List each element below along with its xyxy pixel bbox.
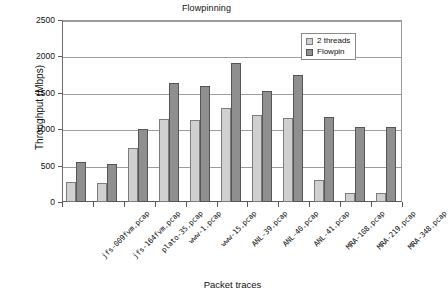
bar-www-15.pcap-Flowpin: [200, 86, 210, 202]
x-tick-mark: [93, 202, 94, 207]
bar-MRA-348.pcap-2-threads: [376, 193, 386, 202]
x-tick-mark: [402, 202, 403, 207]
bar-MRA-108.pcap-2-threads: [314, 180, 324, 202]
x-tick-mark: [340, 202, 341, 207]
x-tick-mark: [124, 202, 125, 207]
bar-MRA-219.pcap-Flowpin: [355, 127, 365, 202]
bar-MRA-219.pcap-2-threads: [345, 193, 355, 202]
bar-MRA-108.pcap-Flowpin: [324, 117, 334, 202]
y-tick-label: 2500: [15, 15, 55, 25]
bar-ANL-40.pcap-2-threads: [252, 115, 262, 202]
y-tick-mark: [58, 93, 62, 94]
bar-jfs-164fvm.pcap-2-threads: [97, 183, 107, 202]
bar-jfs-009fvm.pcap-Flowpin: [76, 162, 86, 202]
legend-item-Flowpin: Flowpin: [306, 48, 350, 56]
y-tick-label: 1500: [15, 88, 55, 98]
y-gridline: [63, 21, 401, 22]
bar-ANL-41.pcap-2-threads: [283, 118, 293, 202]
bar-jfs-164fvm.pcap-Flowpin: [107, 164, 117, 202]
chart-title: Flowpinning: [0, 3, 413, 13]
bar-www-15.pcap-2-threads: [190, 120, 200, 202]
legend-swatch-icon: [306, 38, 313, 45]
bar-plato-35.pcap-2-threads: [128, 148, 138, 202]
bar-ANL-41.pcap-Flowpin: [293, 75, 303, 202]
y-tick-label: 500: [15, 161, 55, 171]
x-tick-mark: [217, 202, 218, 207]
legend-label: Flowpin: [317, 48, 345, 56]
y-tick-label: 1000: [15, 124, 55, 134]
x-tick-mark: [186, 202, 187, 207]
bar-ANL-39.pcap-2-threads: [221, 108, 231, 202]
legend-label: 2 threads: [317, 37, 350, 45]
x-tick-mark: [371, 202, 372, 207]
x-tick-mark: [278, 202, 279, 207]
bar-jfs-009fvm.pcap-2-threads: [66, 182, 76, 202]
y-tick-mark: [58, 56, 62, 57]
bar-ANL-39.pcap-Flowpin: [231, 63, 241, 202]
x-axis-title: Packet traces: [60, 279, 405, 290]
y-tick-label: 2000: [15, 51, 55, 61]
bar-www-1.pcap-Flowpin: [169, 83, 179, 202]
y-tick-mark: [58, 166, 62, 167]
bar-ANL-40.pcap-Flowpin: [262, 91, 272, 202]
x-tick-mark: [309, 202, 310, 207]
x-tick-mark: [155, 202, 156, 207]
y-tick-mark: [58, 129, 62, 130]
legend-swatch-icon: [306, 49, 313, 56]
x-tick-mark: [62, 202, 63, 207]
bar-www-1.pcap-2-threads: [159, 119, 169, 202]
legend-item-2-threads: 2 threads: [306, 37, 350, 45]
bar-MRA-348.pcap-Flowpin: [386, 127, 396, 202]
bar-plato-35.pcap-Flowpin: [138, 129, 148, 202]
chart-legend: 2 threadsFlowpin: [301, 33, 356, 60]
y-tick-label: 0: [15, 197, 55, 207]
y-tick-mark: [58, 20, 62, 21]
x-tick-mark: [247, 202, 248, 207]
